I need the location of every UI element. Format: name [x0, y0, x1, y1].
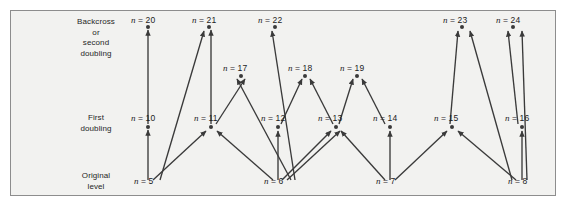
node-dot-n20: [146, 25, 150, 29]
figure-page: Backcross or second doubling First doubl…: [0, 0, 580, 216]
node-label-n16: n = 16: [505, 113, 529, 123]
node-label-n22: n = 22: [258, 15, 282, 25]
arrow-n6-to-n11: [217, 131, 273, 180]
arrow-layer: [148, 30, 527, 180]
arrow-n6-to-n13: [282, 131, 331, 180]
row-label-backcross: Backcross or second doubling: [50, 17, 142, 59]
node-dot-n17: [239, 74, 243, 78]
arrow-n15-to-n23: [450, 31, 458, 124]
node-label-n14: n = 14: [373, 113, 397, 123]
node-dot-n23: [460, 25, 464, 29]
node-label-n7: n = 7: [376, 176, 395, 186]
node-dot-n14: [388, 125, 392, 129]
node-dot-n19: [355, 74, 359, 78]
node-dot-n22: [273, 25, 277, 29]
node-label-n13: n = 13: [318, 113, 342, 123]
node-label-n10: n = 10: [131, 113, 155, 123]
arrow-n8-to-n24: [522, 31, 527, 180]
node-label-n24: n = 24: [496, 15, 520, 25]
row-label-original-level: Original level: [50, 171, 142, 192]
node-label-n11: n = 11: [194, 113, 218, 123]
node-label-n15: n = 15: [434, 113, 458, 123]
node-label-n23: n = 23: [443, 15, 467, 25]
node-dot-n15: [450, 125, 454, 129]
node-label-n21: n = 21: [192, 15, 216, 25]
arrow-n11-to-n17: [216, 79, 245, 124]
node-label-n18: n = 18: [288, 63, 312, 73]
node-dot-n24: [511, 25, 515, 29]
arrow-n16-to-n24: [508, 31, 518, 124]
node-dot-n16: [520, 125, 524, 129]
arrow-n5b-to-n21: [160, 31, 204, 180]
node-label-n17: n = 17: [223, 63, 247, 73]
arrow-n6-to-n17: [237, 79, 291, 180]
arrow-n7-to-n15: [395, 131, 447, 180]
arrow-n5-to-n11: [153, 131, 206, 180]
node-dot-n11: [209, 125, 213, 129]
arrow-n6-to-n22: [272, 31, 295, 180]
node-label-n12: n = 12: [261, 113, 285, 123]
node-label-n20: n = 20: [131, 15, 155, 25]
row-label-first-doubling: First doubling: [50, 113, 142, 134]
arrow-n8-to-n23: [470, 31, 512, 180]
node-label-n5: n = 5: [134, 176, 153, 186]
node-dot-n10: [146, 125, 150, 129]
node-dot-n12: [276, 125, 280, 129]
node-label-n19: n = 19: [340, 63, 364, 73]
node-dot-n21: [207, 25, 211, 29]
arrow-n8-to-n15: [458, 131, 516, 180]
node-dot-n18: [303, 74, 307, 78]
arrow-n7-to-n13: [341, 131, 385, 180]
arrow-n6-to-n13b: [287, 131, 340, 180]
node-label-n6: n = 6: [264, 176, 283, 186]
node-label-n8: n = 8: [508, 176, 527, 186]
node-dot-n13: [334, 125, 338, 129]
